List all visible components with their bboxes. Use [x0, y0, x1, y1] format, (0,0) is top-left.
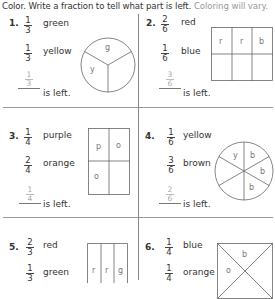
label-b: b: [259, 37, 264, 46]
answer-blank[interactable]: 36: [159, 71, 181, 89]
denominator: 3: [27, 273, 32, 283]
label-p: p: [96, 142, 101, 151]
answer-blank[interactable]: 26: [159, 186, 181, 204]
color-word-green: green: [43, 18, 69, 28]
numerator: 2: [162, 14, 167, 24]
label-g: g: [118, 266, 123, 275]
denominator: 6: [168, 79, 173, 88]
problem-number: 1.: [9, 18, 19, 28]
color-word-blue: blue: [181, 46, 200, 56]
color-word-yellow: yellow: [183, 130, 212, 140]
denominator: 4: [166, 247, 171, 257]
problem-number: 3.: [9, 131, 19, 141]
rectangle-fourths-shape[interactable]: p o o: [88, 128, 130, 195]
label-o: o: [94, 172, 99, 181]
numerator: 3: [168, 155, 173, 165]
color-word-blue: blue: [183, 240, 202, 250]
fraction-orange: 24: [23, 156, 33, 174]
denominator: 6: [162, 24, 167, 34]
is-left-label: is left.: [43, 199, 71, 209]
color-word-green: green: [43, 267, 69, 277]
answer-fraction: 36: [159, 71, 181, 87]
numerator: 1: [166, 237, 171, 247]
label-y: y: [233, 151, 238, 160]
denominator: 6: [168, 137, 173, 147]
color-word-brown: brown: [183, 158, 211, 168]
fraction-red: 26: [160, 15, 170, 33]
color-word-red: red: [181, 17, 196, 27]
fraction-purple: 14: [23, 128, 33, 146]
instructions: Color. Write a fraction to tell what par…: [2, 1, 268, 11]
color-word-orange: orange: [183, 267, 215, 277]
rectangle-sixths-shape[interactable]: r r b: [211, 27, 273, 81]
answer-blank[interactable]: 13: [18, 71, 40, 89]
is-left-label: is left.: [43, 88, 71, 98]
problem-number: 6.: [145, 242, 155, 252]
label-r: r: [105, 266, 109, 275]
denominator: 3: [27, 247, 32, 257]
denominator: 3: [27, 79, 32, 88]
fraction-orange: 14: [164, 264, 174, 282]
problem-number: 2.: [146, 18, 156, 28]
label-g: g: [105, 43, 110, 52]
fraction-red: 23: [25, 238, 35, 256]
square-diagonal-fourths-shape[interactable]: b o: [217, 243, 273, 299]
color-word-red: red: [43, 240, 58, 250]
denominator: 3: [25, 53, 30, 63]
denominator: 4: [28, 194, 33, 203]
color-word-purple: purple: [43, 130, 72, 140]
numerator: 1: [25, 127, 30, 137]
rectangle-thirds-shape[interactable]: r r g: [87, 243, 128, 283]
numerator: 1: [25, 43, 30, 53]
denominator: 6: [168, 165, 173, 175]
answer-fraction: 14: [19, 186, 41, 202]
fraction-green: 13: [23, 16, 33, 34]
color-word-yellow: yellow: [43, 46, 72, 56]
fraction-green: 13: [25, 264, 35, 282]
answer-fraction: 13: [18, 71, 40, 87]
answer-fraction: 26: [159, 186, 181, 202]
label-r: r: [240, 37, 244, 46]
problem-number: 5.: [9, 242, 19, 252]
label-r: r: [219, 37, 223, 46]
fraction-yellow: 16: [166, 128, 176, 146]
label-o: o: [116, 141, 121, 150]
label-b: b: [242, 250, 247, 259]
label-b: b: [250, 151, 255, 160]
coloring-note: Coloring will vary.: [194, 1, 268, 11]
column-divider: [138, 14, 139, 280]
is-left-label: is left.: [183, 88, 211, 98]
label-y: y: [90, 65, 95, 74]
fraction-yellow: 13: [23, 44, 33, 62]
numerator: 1: [25, 15, 30, 25]
denominator: 3: [25, 25, 30, 35]
label-o: o: [226, 266, 231, 275]
circle-thirds-shape[interactable]: g y: [80, 36, 136, 94]
denominator: 4: [25, 137, 30, 147]
numerator: 1: [168, 127, 173, 137]
color-word-orange: orange: [43, 158, 75, 168]
fraction-blue: 14: [164, 238, 174, 256]
label-r: r: [92, 266, 96, 275]
denominator: 4: [25, 165, 30, 175]
fraction-blue: 16: [160, 44, 170, 62]
numerator: 1: [166, 263, 171, 273]
denominator: 6: [162, 53, 167, 63]
numerator: 2: [25, 155, 30, 165]
instruction-text: Color. Write a fraction to tell what par…: [2, 1, 191, 11]
fraction-brown: 36: [166, 156, 176, 174]
answer-blank[interactable]: 14: [19, 186, 41, 204]
denominator: 4: [166, 273, 171, 283]
label-b: b: [249, 183, 254, 192]
numerator: 2: [27, 237, 32, 247]
label-b: b: [260, 167, 265, 176]
problem-number: 4.: [145, 131, 155, 141]
is-left-label: is left.: [183, 199, 211, 209]
denominator: 6: [168, 194, 173, 203]
numerator: 1: [27, 263, 32, 273]
numerator: 1: [162, 43, 167, 53]
circle-sixths-shape[interactable]: y b b b: [214, 141, 274, 201]
